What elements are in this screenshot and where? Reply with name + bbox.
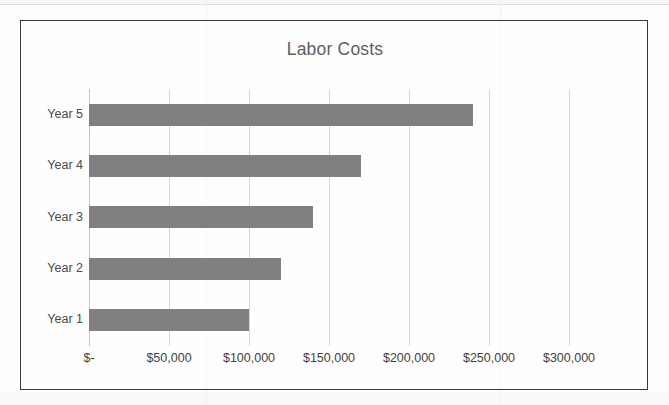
bar-year-5[interactable] [89, 104, 473, 126]
chart-title: Labor Costs [21, 39, 649, 60]
value-tick-label: $200,000 [383, 351, 435, 365]
scan-artifact-streak [0, 0, 669, 4]
scan-artifact-line [0, 4, 669, 5]
bar-row [89, 192, 609, 243]
scan-artifact-streak [0, 392, 669, 405]
plot-area [89, 89, 609, 346]
bar-year-4[interactable] [89, 155, 361, 177]
value-tick-label: $250,000 [463, 351, 515, 365]
bar-row [89, 243, 609, 294]
category-axis: Year 5Year 4Year 3Year 2Year 1 [21, 89, 83, 346]
value-tick-label: $50,000 [146, 351, 191, 365]
value-tick-label: $- [83, 351, 94, 365]
value-tick-label: $100,000 [223, 351, 275, 365]
category-label-year-4: Year 4 [23, 158, 83, 172]
bar-year-1[interactable] [89, 309, 249, 331]
bar-row [89, 89, 609, 140]
category-label-year-3: Year 3 [23, 210, 83, 224]
value-tick-label: $300,000 [543, 351, 595, 365]
category-label-year-2: Year 2 [23, 261, 83, 275]
bar-year-2[interactable] [89, 258, 281, 280]
bar-year-3[interactable] [89, 206, 313, 228]
category-label-year-1: Year 1 [23, 312, 83, 326]
category-label-year-5: Year 5 [23, 107, 83, 121]
bar-row [89, 140, 609, 191]
chart-container: Labor Costs Year 5Year 4Year 3Year 2Year… [20, 20, 648, 390]
bar-row [89, 295, 609, 346]
value-tick-label: $150,000 [303, 351, 355, 365]
value-axis: $-$50,000$100,000$150,000$200,000$250,00… [89, 351, 609, 377]
